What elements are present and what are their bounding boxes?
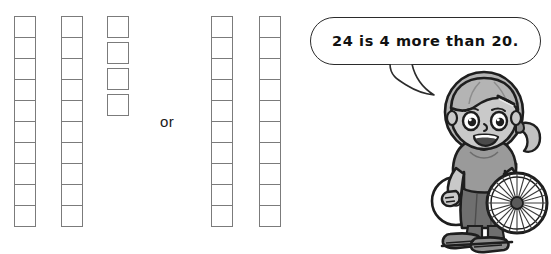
speech-bubble-text: 24 is 4 more than 20. bbox=[332, 33, 519, 49]
unit-cell bbox=[259, 37, 281, 59]
unit-cell bbox=[259, 79, 281, 101]
right-ten-rod-1 bbox=[211, 16, 233, 227]
unit-cell bbox=[211, 184, 233, 206]
unit-cell bbox=[211, 79, 233, 101]
unit-cell bbox=[259, 163, 281, 185]
unit-cell bbox=[259, 205, 281, 227]
unit-cell bbox=[211, 121, 233, 143]
unit-cell bbox=[259, 58, 281, 80]
unit-cell bbox=[211, 37, 233, 59]
unit-cell bbox=[211, 142, 233, 164]
right-group-total: 20 bbox=[0, 0, 1, 1]
unit-cell bbox=[211, 16, 233, 38]
girl-in-wheelchair-illustration bbox=[420, 68, 551, 254]
worksheet-canvas: Comparing 24 and 20 with base-ten blocks… bbox=[0, 0, 551, 254]
wheelchair-front-wheel bbox=[487, 173, 547, 233]
speech-bubble: 24 is 4 more than 20. bbox=[310, 17, 541, 65]
unit-cell bbox=[211, 163, 233, 185]
ponytail bbox=[516, 121, 540, 151]
unit-cell bbox=[259, 121, 281, 143]
unit-cell bbox=[259, 16, 281, 38]
unit-cell bbox=[259, 142, 281, 164]
right-quantity-group: 20 bbox=[0, 0, 300, 254]
unit-cell bbox=[211, 100, 233, 122]
unit-cell bbox=[211, 58, 233, 80]
unit-cell bbox=[211, 205, 233, 227]
right-ten-rod-2 bbox=[259, 16, 281, 227]
unit-cell bbox=[259, 100, 281, 122]
unit-cell bbox=[259, 184, 281, 206]
